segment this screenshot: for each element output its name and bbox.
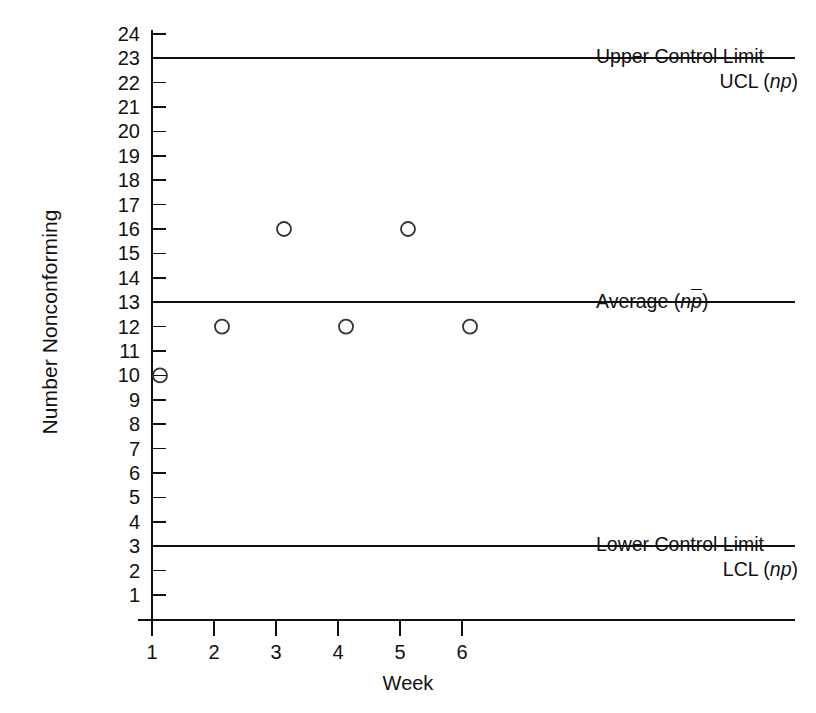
average-annotation: Average (np) <box>596 289 816 314</box>
x-tick-label-5: 5 <box>380 642 420 662</box>
lcl-label-line1: Lower Control Limit <box>596 532 816 557</box>
avg-symbol-pbar: p <box>691 290 702 312</box>
y-tick-label-11: 11 <box>94 341 140 361</box>
avg-symbol-n: n <box>680 290 691 312</box>
y-tick-marks <box>152 34 166 595</box>
y-tick-label-2: 2 <box>94 561 140 581</box>
y-tick-label-19: 19 <box>94 146 140 166</box>
y-tick-label-5: 5 <box>94 487 140 507</box>
y-tick-label-4: 4 <box>94 512 140 532</box>
ucl-paren-open: UCL ( <box>720 70 770 92</box>
x-tick-marks <box>152 620 462 636</box>
lcl-paren-open: LCL ( <box>723 558 770 580</box>
avg-paren-close: ) <box>702 290 709 312</box>
y-tick-label-23: 23 <box>94 48 140 68</box>
lcl-label-line2: LCL (np) <box>596 557 816 582</box>
y-tick-label-12: 12 <box>94 317 140 337</box>
y-tick-label-21: 21 <box>94 97 140 117</box>
y-tick-label-14: 14 <box>94 268 140 288</box>
y-tick-label-24: 24 <box>94 24 140 44</box>
x-tick-label-1: 1 <box>132 642 172 662</box>
lcl-paren-close: ) <box>792 558 799 580</box>
x-tick-label-2: 2 <box>194 642 234 662</box>
data-point-week-6 <box>463 320 477 334</box>
y-tick-label-3: 3 <box>94 536 140 556</box>
x-tick-label-6: 6 <box>442 642 482 662</box>
lower-control-limit-annotation: Lower Control Limit LCL (np) <box>596 532 816 582</box>
upper-control-limit-annotation: Upper Control Limit UCL (np) <box>596 44 816 94</box>
lcl-symbol: np <box>770 558 792 580</box>
y-tick-label-13: 13 <box>94 292 140 312</box>
y-tick-label-10: 10 <box>94 365 140 385</box>
ucl-label-line1: Upper Control Limit <box>596 44 816 69</box>
y-tick-label-15: 15 <box>94 243 140 263</box>
y-tick-label-6: 6 <box>94 463 140 483</box>
data-point-week-3 <box>277 222 291 236</box>
y-tick-label-22: 22 <box>94 73 140 93</box>
data-point-week-5 <box>401 222 415 236</box>
np-control-chart: Number Nonconforming 1234567891011121314… <box>0 0 816 713</box>
y-tick-label-16: 16 <box>94 219 140 239</box>
x-tick-label-3: 3 <box>256 642 296 662</box>
y-tick-label-20: 20 <box>94 121 140 141</box>
y-tick-label-9: 9 <box>94 390 140 410</box>
x-axis-title: Week <box>0 672 816 695</box>
y-tick-label-8: 8 <box>94 414 140 434</box>
x-tick-label-4: 4 <box>318 642 358 662</box>
ucl-paren-close: ) <box>792 70 799 92</box>
y-tick-label-7: 7 <box>94 439 140 459</box>
avg-label-line1: Average (np) <box>596 289 816 314</box>
data-point-week-4 <box>339 320 353 334</box>
y-tick-label-1: 1 <box>94 585 140 605</box>
ucl-symbol: np <box>770 70 792 92</box>
y-tick-label-18: 18 <box>94 170 140 190</box>
data-point-week-2 <box>215 320 229 334</box>
avg-text: Average ( <box>596 290 680 312</box>
ucl-label-line2: UCL (np) <box>596 69 816 94</box>
y-tick-label-17: 17 <box>94 195 140 215</box>
